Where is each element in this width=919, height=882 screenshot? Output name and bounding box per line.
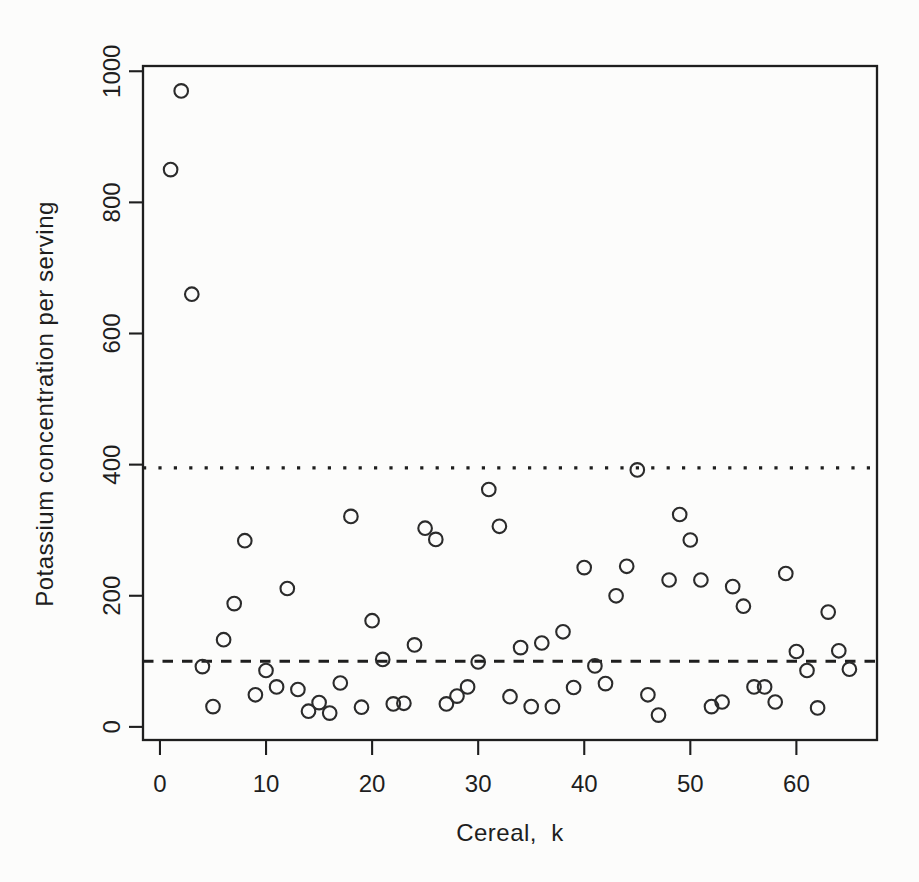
data-point	[599, 677, 613, 691]
data-point	[726, 580, 740, 594]
data-point	[418, 521, 432, 535]
data-point	[334, 676, 348, 690]
data-point	[662, 573, 676, 587]
data-point	[217, 633, 231, 647]
data-point	[249, 688, 263, 702]
data-point	[790, 645, 804, 659]
data-point	[652, 708, 666, 722]
data-point	[673, 508, 687, 522]
data-point	[832, 644, 846, 658]
plot-border	[143, 66, 877, 740]
data-point	[227, 597, 241, 611]
data-point	[164, 163, 178, 177]
data-point	[365, 614, 379, 628]
y-axis-title: Potassium concentration per serving	[31, 201, 59, 607]
data-point	[238, 534, 252, 548]
x-tick-label: 0	[153, 770, 166, 797]
scatter-plot: 010203040506002004006008001000	[0, 0, 919, 882]
x-tick-label: 20	[359, 770, 386, 797]
data-point	[514, 641, 528, 655]
x-tick-label: 10	[253, 770, 280, 797]
data-point	[641, 688, 655, 702]
data-point	[185, 287, 199, 301]
data-point	[843, 662, 857, 676]
data-point	[609, 589, 623, 603]
x-tick-label: 60	[783, 770, 810, 797]
data-point	[821, 605, 835, 619]
y-tick-label: 0	[98, 720, 125, 733]
x-axis-title: Cereal, k	[456, 819, 564, 847]
data-point	[811, 701, 825, 715]
data-points	[164, 84, 856, 722]
data-point	[631, 463, 645, 477]
data-point	[429, 533, 443, 547]
y-tick-label: 600	[98, 313, 125, 353]
y-tick-label: 200	[98, 576, 125, 616]
data-point	[800, 664, 814, 678]
data-point	[620, 560, 634, 574]
y-tick-label: 800	[98, 182, 125, 222]
data-point	[355, 700, 369, 714]
data-point	[408, 638, 422, 652]
data-point	[206, 700, 220, 714]
data-point	[344, 510, 358, 524]
data-point	[461, 680, 475, 694]
data-point	[493, 520, 507, 534]
data-point	[482, 483, 496, 497]
data-point	[281, 582, 295, 596]
x-tick-label: 40	[571, 770, 598, 797]
x-tick-label: 30	[465, 770, 492, 797]
data-point	[291, 683, 305, 697]
data-point	[376, 653, 390, 667]
data-point	[524, 700, 538, 714]
data-point	[546, 700, 560, 714]
data-point	[567, 681, 581, 695]
data-point	[535, 636, 549, 650]
data-point	[779, 567, 793, 581]
x-tick-label: 50	[677, 770, 704, 797]
data-point	[259, 664, 273, 678]
data-point	[323, 706, 337, 720]
data-point	[694, 573, 708, 587]
data-point	[312, 696, 326, 710]
data-point	[768, 695, 782, 709]
y-tick-label: 1000	[98, 45, 125, 98]
figure-canvas: 010203040506002004006008001000 Cereal, k…	[0, 0, 919, 882]
data-point	[556, 625, 570, 639]
data-point	[577, 561, 591, 575]
data-point	[270, 680, 284, 694]
y-tick-label: 400	[98, 445, 125, 485]
data-point	[737, 599, 751, 613]
data-point	[503, 690, 517, 704]
data-point	[684, 533, 698, 547]
reference-lines	[143, 468, 877, 661]
data-point	[174, 84, 188, 98]
